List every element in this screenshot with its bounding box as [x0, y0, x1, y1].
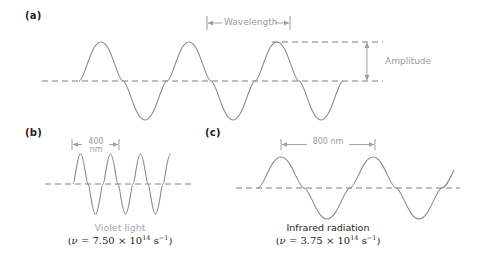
caption-violet-light: Violet light	[60, 222, 180, 233]
wave-curves-svg: | -->	[0, 0, 483, 257]
formula-c-mantissa: 3.75	[300, 235, 322, 246]
formula-b-mantissa: 7.50	[92, 235, 114, 246]
formula-b-close: )	[168, 235, 172, 246]
formula-c-eq: =	[286, 235, 301, 246]
formula-c-unit-exponent: −1	[367, 234, 377, 242]
formula-c-times: ×	[323, 235, 338, 246]
formula-c-base: 10	[337, 235, 350, 246]
wavelength-value-b: 400 nm	[80, 138, 112, 155]
formula-c-unit: s	[358, 235, 366, 246]
formula-c-close: )	[376, 235, 380, 246]
formula-b-unit: s	[150, 235, 158, 246]
caption-infrared-radiation: Infrared radiation	[253, 222, 403, 233]
wavelength-value-c: 800 nm	[298, 138, 358, 146]
formula-frequency-c: (ν = 3.75 × 1014 s−1)	[248, 234, 408, 246]
formula-b-times: ×	[115, 235, 130, 246]
amplitude-label: Amplitude	[385, 56, 431, 66]
amplitude-measure-a	[365, 42, 370, 81]
wave-diagram-figure: (a) (b) (c) | -->	[0, 0, 483, 257]
formula-b-eq: =	[78, 235, 93, 246]
formula-b-unit-exponent: −1	[159, 234, 169, 242]
wavelength-label: Wavelength	[224, 17, 277, 27]
formula-frequency-b: (ν = 7.50 × 1014 s−1)	[55, 234, 185, 246]
formula-b-base: 10	[129, 235, 142, 246]
